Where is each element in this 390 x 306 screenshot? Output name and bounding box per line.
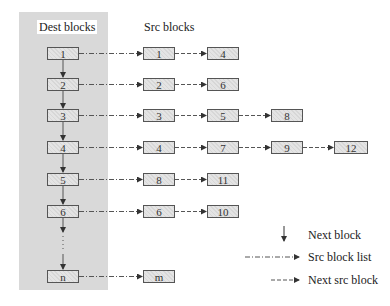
legend-next-src-block: Next src block (308, 273, 378, 287)
legend-next-block: Next block (308, 228, 361, 242)
legend-src-block-list: Src block list (308, 250, 371, 264)
